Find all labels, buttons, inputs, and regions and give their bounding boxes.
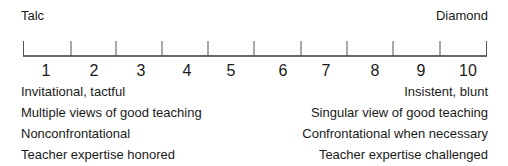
scale-number-10: 10 <box>459 62 477 80</box>
left-descriptor: Multiple views of good teaching <box>21 105 202 120</box>
left-descriptor: Nonconfrontational <box>21 126 130 141</box>
left-descriptor: Invitational, tactful <box>21 84 125 99</box>
scale-number-4: 4 <box>183 62 192 80</box>
scale-number-7: 7 <box>322 62 331 80</box>
hardness-scale-line <box>0 0 508 90</box>
right-descriptor: Teacher expertise challenged <box>319 147 488 162</box>
right-descriptor: Singular view of good teaching <box>311 105 488 120</box>
scale-number-1: 1 <box>42 62 51 80</box>
scale-number-8: 8 <box>371 62 380 80</box>
scale-number-3: 3 <box>137 62 146 80</box>
scale-number-6: 6 <box>279 62 288 80</box>
scale-number-5: 5 <box>227 62 236 80</box>
scale-number-9: 9 <box>417 62 426 80</box>
right-descriptor: Insistent, blunt <box>404 84 488 99</box>
left-descriptor: Teacher expertise honored <box>21 147 175 162</box>
right-descriptor: Confrontational when necessary <box>302 126 488 141</box>
scale-number-2: 2 <box>90 62 99 80</box>
